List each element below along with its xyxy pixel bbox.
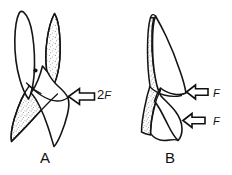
figure-illustration [0, 0, 232, 175]
panel-label-a: A [40, 150, 50, 165]
panel-label-b: B [165, 150, 175, 165]
force-b-lower-symbol: F [213, 115, 220, 127]
figure-root: 2F F F A B [0, 0, 232, 175]
force-label-b-upper: F [213, 86, 220, 99]
pulp-dot [33, 68, 37, 72]
force-arrow-a [69, 89, 95, 105]
panel-a-drawing [11, 11, 94, 146]
panel-b-tooth-outline [153, 16, 187, 141]
panel-a-left-cusp-outline [15, 11, 35, 99]
force-b-upper-symbol: F [213, 87, 220, 99]
force-a-symbol: F [104, 89, 111, 101]
force-label-a: 2F [97, 88, 111, 101]
force-arrow-b-lower [183, 114, 205, 128]
force-label-b-lower: F [213, 114, 220, 127]
force-arrow-b-upper [187, 85, 209, 99]
panel-b-drawing [142, 15, 209, 141]
